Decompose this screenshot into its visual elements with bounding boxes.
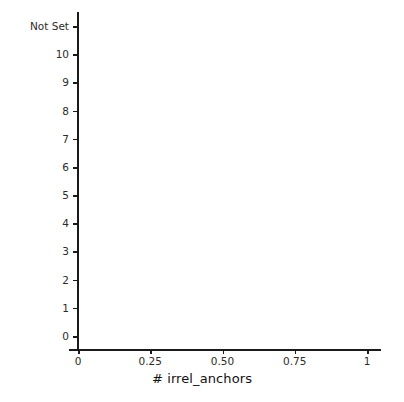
x-tick-mark bbox=[78, 350, 80, 354]
bar-9 bbox=[78, 70, 367, 95]
y-tick-label-8: 8 bbox=[7, 106, 69, 117]
bar-3 bbox=[78, 239, 249, 264]
x-tick-label-0.25: 0.25 bbox=[130, 356, 170, 367]
bar-chart-figure: Not Set109876543210 # irrel_anchors 00.2… bbox=[0, 0, 404, 402]
x-tick-mark bbox=[150, 350, 152, 354]
x-tick-mark bbox=[367, 350, 369, 354]
x-tick-label-0.50: 0.50 bbox=[203, 356, 243, 367]
bar-7 bbox=[78, 126, 364, 151]
y-tick-label-4: 4 bbox=[7, 218, 69, 229]
y-tick-label-2: 2 bbox=[7, 275, 69, 286]
y-tick-label-6: 6 bbox=[7, 162, 69, 173]
y-tick-mark bbox=[73, 280, 77, 282]
plot-area bbox=[78, 12, 367, 350]
y-tick-mark bbox=[73, 54, 77, 56]
y-tick-mark bbox=[73, 82, 77, 84]
y-tick-mark bbox=[73, 308, 77, 310]
bar-0 bbox=[78, 323, 367, 348]
y-tick-label-not-set: Not Set bbox=[7, 21, 69, 32]
y-tick-label-1: 1 bbox=[7, 303, 69, 314]
y-tick-mark bbox=[73, 139, 77, 141]
bar-10 bbox=[78, 42, 367, 67]
bar-8 bbox=[78, 98, 367, 123]
bar-1 bbox=[78, 295, 361, 320]
y-tick-mark bbox=[73, 251, 77, 253]
y-tick-label-5: 5 bbox=[7, 190, 69, 201]
y-tick-label-0: 0 bbox=[7, 331, 69, 342]
x-tick-mark bbox=[223, 350, 225, 354]
bar-2 bbox=[78, 267, 311, 292]
bar-6 bbox=[78, 154, 361, 179]
x-tick-mark bbox=[295, 350, 297, 354]
bar-not-set bbox=[78, 14, 361, 39]
y-tick-mark bbox=[73, 111, 77, 113]
bar-4 bbox=[78, 211, 328, 236]
y-tick-mark bbox=[73, 167, 77, 169]
y-tick-mark bbox=[73, 195, 77, 197]
y-tick-label-3: 3 bbox=[7, 246, 69, 257]
y-tick-label-10: 10 bbox=[7, 49, 69, 60]
y-tick-mark bbox=[73, 223, 77, 225]
x-tick-label-0.75: 0.75 bbox=[275, 356, 315, 367]
y-tick-mark bbox=[73, 26, 77, 28]
y-axis-labels: Not Set109876543210 bbox=[0, 0, 69, 402]
x-axis-title: # irrel_anchors bbox=[0, 371, 404, 386]
y-tick-label-9: 9 bbox=[7, 77, 69, 88]
y-tick-label-7: 7 bbox=[7, 134, 69, 145]
bar-5 bbox=[78, 183, 348, 208]
x-tick-label-1: 1 bbox=[347, 356, 387, 367]
y-tick-mark bbox=[73, 336, 77, 338]
x-tick-label-0: 0 bbox=[58, 356, 98, 367]
